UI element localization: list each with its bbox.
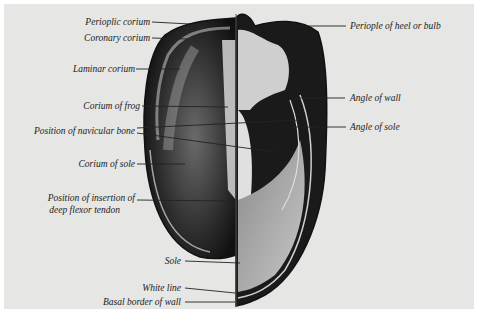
label-sole: Sole <box>165 256 181 266</box>
label-insertion-deep-flexor-2: deep flexor tendon <box>49 205 120 215</box>
label-basal-border: Basal border of wall <box>103 297 181 307</box>
label-corium-of-frog: Corium of frog <box>83 101 140 111</box>
hoof-capsule-half <box>236 14 327 306</box>
label-laminar-corium: Laminar corium <box>73 64 135 74</box>
label-position-navicular-bone: Position of navicular bone <box>34 126 135 136</box>
corium-half <box>144 18 236 258</box>
label-perioplic-corium: Perioplic corium <box>85 17 150 27</box>
label-angle-of-sole: Angle of sole <box>350 122 400 132</box>
label-angle-of-wall: Angle of wall <box>350 93 401 103</box>
label-coronary-corium: Coronary corium <box>84 33 150 43</box>
label-periople-heel: Periople of heel or bulb <box>350 21 441 31</box>
label-corium-of-sole: Corium of sole <box>79 159 135 169</box>
label-insertion-deep-flexor-1: Position of insertion of <box>48 193 135 203</box>
label-white-line: White line <box>142 283 181 293</box>
hoof-illustration <box>0 0 478 319</box>
